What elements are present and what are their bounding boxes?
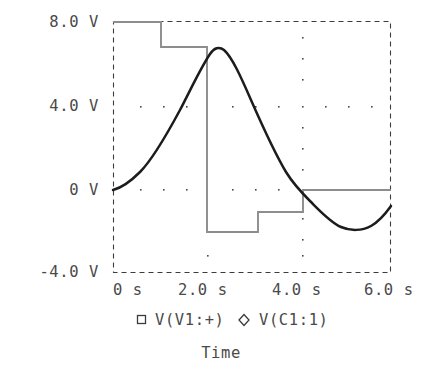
gridline-horizontal-0v xyxy=(140,189,280,191)
ytick-label-4v: 4.0 V xyxy=(49,97,99,115)
ytick-label-8v: 8.0 V xyxy=(49,13,99,31)
legend: V(V1:+) V(C1:1) xyxy=(138,311,329,329)
waveform-plot: 8.0 V 4.0 V 0 V -4.0 V xyxy=(0,0,443,384)
diamond-marker-icon xyxy=(239,315,249,326)
legend-label-v1-plus: V(V1:+) xyxy=(155,311,225,329)
xtick-label-0s: 0 s xyxy=(113,281,143,299)
gridline-vertical-2s xyxy=(207,255,209,257)
xtick-label-6s: 6.0 s xyxy=(364,281,414,299)
ytick-label-neg4v: -4.0 V xyxy=(39,263,99,281)
legend-entry-v1-plus[interactable]: V(V1:+) xyxy=(138,311,225,329)
square-marker-icon xyxy=(138,316,146,324)
trace-v1-plus xyxy=(113,22,391,232)
x-axis-title: Time xyxy=(201,344,241,362)
legend-entry-c1-1[interactable]: V(C1:1) xyxy=(239,311,329,329)
plot-area-container: 8.0 V 4.0 V 0 V -4.0 V xyxy=(0,0,443,384)
plot-frame xyxy=(114,22,391,273)
legend-label-c1-1: V(C1:1) xyxy=(259,311,329,329)
ytick-label-0v: 0 V xyxy=(69,181,99,199)
pspice-waveform-viewer: 8.0 V 4.0 V 0 V -4.0 V xyxy=(0,0,443,384)
trace-c1-1 xyxy=(113,48,391,230)
xtick-label-4s: 4.0 s xyxy=(272,281,322,299)
xtick-label-2s: 2.0 s xyxy=(178,281,228,299)
gridline-horizontal-4v xyxy=(140,106,373,108)
gridline-vertical-4s xyxy=(302,37,304,257)
